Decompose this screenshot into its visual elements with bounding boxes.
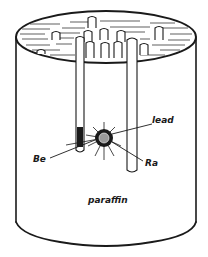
be-leader <box>50 140 95 158</box>
label-radium: Ra <box>145 159 158 168</box>
tube-stubs <box>37 17 163 59</box>
label-paraffin: paraffin <box>88 196 128 205</box>
label-lead: lead <box>152 116 174 125</box>
label-beryllium: Be <box>33 155 46 164</box>
paraffin-block-diagram <box>0 0 208 257</box>
cylinder-bottom <box>16 222 196 246</box>
beryllium-rod <box>77 127 83 147</box>
radium-source <box>99 133 109 143</box>
